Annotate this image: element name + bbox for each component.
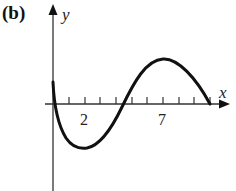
graph: y x 2 7 [0,0,236,191]
tick-label-7: 7 [158,111,166,128]
y-axis-arrow-icon [49,4,58,15]
x-axis-label: x [218,83,227,102]
y-axis-label: y [60,5,70,24]
x-axis-ticks [69,97,210,104]
tick-label-2: 2 [80,111,88,128]
